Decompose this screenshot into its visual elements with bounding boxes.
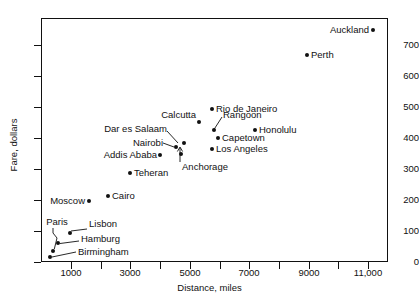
leader-lines [0,0,419,300]
birmingham-leader-line [52,252,76,257]
data-point-anchorage[interactable] [179,152,183,156]
data-point-rangoon[interactable] [212,128,216,132]
data-point-rio-de-janeiro[interactable] [210,107,214,111]
lisbon-leader-line [71,229,87,231]
label-honolulu: Honolulu [259,125,297,135]
dar-es-salaam-leader-line [167,131,178,143]
data-point-nairobi[interactable] [174,145,178,149]
data-point-auckland[interactable] [371,28,375,32]
data-point-calcutta[interactable] [197,120,201,124]
data-point-addis-ababa[interactable] [158,153,162,157]
label-dar-es-salaam: Dar es Salaam [104,124,167,134]
label-los-angeles: Los Angeles [216,144,268,154]
data-point-lisbon[interactable] [68,231,72,235]
label-auckland: Auckland [330,25,369,35]
label-calcutta: Calcutta [161,110,196,120]
label-anchorage: Anchorage [182,162,228,172]
data-point-birmingham[interactable] [48,255,52,259]
hamburg-leader-line [60,241,79,244]
data-point-paris[interactable] [51,249,55,253]
data-point-dar-es-salaam[interactable] [182,141,186,145]
label-hamburg: Hamburg [81,234,120,244]
label-nairobi: Nairobi [133,138,163,148]
data-point-hamburg[interactable] [56,241,60,245]
label-birmingham: Birmingham [78,247,129,257]
label-rio-de-janeiro: Rio de Janeiro [216,104,277,114]
paris-leader-line [53,228,57,249]
data-point-moscow[interactable] [87,199,91,203]
label-perth: Perth [311,50,334,60]
label-teheran: Teheran [134,168,168,178]
data-point-cairo[interactable] [106,194,110,198]
label-paris: Paris [46,217,68,227]
data-point-capetown[interactable] [216,136,220,140]
label-lisbon: Lisbon [89,219,117,229]
scatter-plot-figure: 0 100 200 300 400 500 600 700 1000 3000 … [0,0,419,300]
label-moscow: Moscow [50,196,85,206]
label-cairo: Cairo [112,191,135,201]
label-addis-ababa: Addis Ababa [104,150,157,160]
data-point-los-angeles[interactable] [210,147,214,151]
nairobi-leader-line [163,143,174,147]
data-point-teheran[interactable] [128,171,132,175]
data-point-perth[interactable] [305,53,309,57]
